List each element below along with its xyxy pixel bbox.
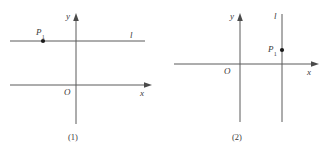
point-label-letter-panel-1: P <box>36 27 42 37</box>
diagram-panel-1: y x O l P1 (1) <box>0 0 163 157</box>
y-axis-panel-1 <box>73 13 79 124</box>
x-axis-arrow-icon <box>311 61 319 67</box>
panel-2-drawing <box>164 0 327 157</box>
point-label-letter-panel-2: P <box>268 44 274 54</box>
y-axis-arrow-icon <box>237 13 243 21</box>
origin-label-panel-1: O <box>64 88 71 97</box>
point-label-subscript-panel-1: 1 <box>42 34 45 40</box>
point-label-panel-1: P1 <box>36 28 45 39</box>
point-label-panel-2: P1 <box>268 45 277 56</box>
caption-panel-1: (1) <box>68 133 78 142</box>
diagram-panel-2: y x O l P1 (2) <box>164 0 327 157</box>
y-axis-arrow-icon <box>73 13 79 21</box>
caption-panel-2: (2) <box>232 133 242 142</box>
origin-label-panel-2: O <box>224 67 231 76</box>
line-label-panel-2: l <box>274 12 277 21</box>
x-axis-label-panel-1: x <box>140 89 144 98</box>
point-p1-panel-2 <box>280 48 284 52</box>
y-axis-panel-2 <box>237 13 243 122</box>
x-axis-panel-2 <box>174 61 319 67</box>
line-label-panel-1: l <box>130 31 133 40</box>
x-axis-arrow-icon <box>144 82 152 88</box>
figure-container: y x O l P1 (1) y x O l P1 (2 <box>0 0 327 157</box>
x-axis-label-panel-2: x <box>307 68 311 77</box>
x-axis-panel-1 <box>10 82 152 88</box>
y-axis-label-panel-1: y <box>66 12 70 21</box>
point-label-subscript-panel-2: 1 <box>274 51 277 57</box>
y-axis-label-panel-2: y <box>230 12 234 21</box>
panel-1-drawing <box>0 0 163 157</box>
